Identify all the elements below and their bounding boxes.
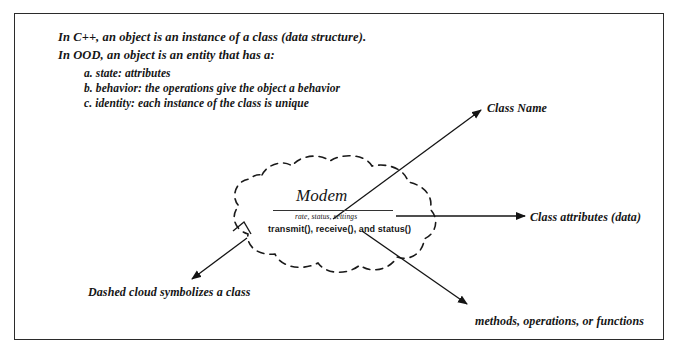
class-attributes-text: rate, status, settings [295,212,357,221]
class-methods-text: transmit(), receive(), and status() [268,224,411,234]
class-name-divider [273,210,393,211]
intro-item-state: a. state: attributes [84,67,171,79]
intro-item-identity: c. identity: each instance of the class … [84,97,309,109]
intro-item-behavior: b. behavior: the operations give the obj… [84,82,340,94]
callout-class-name: Class Name [487,101,547,116]
diagram-page: In C++, an object is an instance of a cl… [0,0,677,356]
intro-line-1: In C++, an object is an instance of a cl… [58,30,366,45]
callout-class-attributes: Class attributes (data) [530,210,641,225]
callout-dashed-cloud: Dashed cloud symbolizes a class [88,285,250,300]
intro-line-2: In OOD, an object is an entity that has … [58,48,275,63]
callout-methods: methods, operations, or functions [475,314,644,329]
class-name-text: Modem [296,186,347,206]
